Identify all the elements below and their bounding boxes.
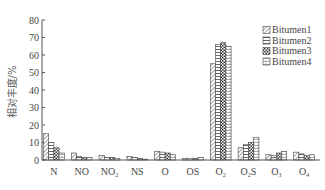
- bar-Bitumen3-O2S: [249, 143, 254, 161]
- bar-Bitumen4-O2S: [254, 137, 259, 160]
- bar-Bitumen1-O4: [294, 152, 299, 160]
- bar-group-NO: [71, 153, 92, 160]
- bar-Bitumen2-N: [49, 143, 54, 161]
- legend-item-Bitumen3: Bitumen3: [263, 45, 311, 56]
- y-tick-label: 20: [29, 120, 39, 131]
- y-tick-label: 10: [29, 137, 39, 148]
- y-tick-label: 50: [29, 67, 39, 78]
- bar-Bitumen1-O2: [210, 64, 215, 160]
- legend-label: Bitumen4: [272, 56, 311, 67]
- bar-Bitumen1-NO2: [99, 156, 104, 160]
- y-tick-label: 0: [34, 155, 39, 166]
- legend-item-Bitumen2: Bitumen2: [263, 35, 311, 46]
- x-axis: NNONO2NSOOSO2O2SO3O4: [42, 160, 320, 178]
- y-tick-label: 70: [29, 32, 39, 43]
- legend-swatch: [263, 48, 270, 55]
- x-tick-label: N: [50, 166, 57, 177]
- y-axis-label: 相对丰度/%: [6, 66, 18, 119]
- legend-swatch: [263, 58, 270, 65]
- y-tick-label: 30: [29, 102, 39, 113]
- bar-Bitumen1-O2S: [238, 148, 243, 160]
- legend-item-Bitumen4: Bitumen4: [263, 56, 311, 67]
- bar-Bitumen1-O3: [266, 155, 271, 160]
- legend-swatch: [263, 27, 270, 34]
- bar-Bitumen4-N: [59, 153, 64, 160]
- x-tick-label: O: [161, 166, 168, 177]
- x-tick-label: NO: [74, 166, 88, 177]
- bar-group-O: [155, 151, 176, 160]
- y-tick-label: 60: [29, 50, 39, 61]
- bar-group-O3: [266, 151, 287, 160]
- bar-Bitumen1-NO: [71, 153, 76, 160]
- bar-Bitumen1-O: [155, 151, 160, 160]
- x-tick-label: O4: [299, 166, 309, 178]
- bar-Bitumen2-O2S: [243, 144, 248, 160]
- bar-Bitumen2-O4: [299, 154, 304, 160]
- legend-swatch: [263, 37, 270, 44]
- bar-Bitumen4-O3: [282, 151, 287, 160]
- bar-group-O2S: [238, 137, 259, 160]
- legend-label: Bitumen3: [272, 45, 311, 56]
- bar-Bitumen3-O2: [221, 43, 226, 160]
- bar-Bitumen2-O2: [216, 45, 221, 161]
- bar-Bitumen3-O: [165, 153, 170, 160]
- x-tick-label: NO2: [101, 166, 118, 178]
- bar-group-N: [44, 134, 65, 160]
- bar-Bitumen1-NS: [127, 157, 132, 161]
- bar-Bitumen2-O: [160, 152, 165, 160]
- legend-label: Bitumen2: [272, 35, 311, 46]
- legend-label: Bitumen1: [272, 24, 311, 35]
- bar-group-O4: [294, 152, 315, 160]
- bar-group-NS: [127, 157, 148, 161]
- bar-Bitumen4-O: [170, 155, 175, 160]
- bar-Bitumen1-N: [44, 134, 49, 160]
- x-tick-label: O2S: [241, 166, 257, 178]
- bar-Bitumen4-O4: [309, 155, 314, 160]
- x-tick-label: O3: [271, 166, 281, 178]
- bar-chart: 相对丰度/% 01020304050607080 NNONO2NSOOSO2O2…: [0, 0, 325, 190]
- legend: Bitumen1Bitumen2Bitumen3Bitumen4: [263, 24, 311, 67]
- x-tick-label: O2: [216, 166, 226, 178]
- bar-Bitumen2-O3: [271, 156, 276, 160]
- bar-group-O2: [210, 43, 231, 160]
- y-axis: 01020304050607080: [29, 15, 45, 166]
- x-tick-label: OS: [187, 166, 200, 177]
- legend-item-Bitumen1: Bitumen1: [263, 24, 311, 35]
- bar-Bitumen2-NO: [77, 157, 82, 161]
- bar-Bitumen3-O3: [276, 153, 281, 160]
- bar-Bitumen3-N: [54, 148, 59, 160]
- y-tick-label: 40: [29, 85, 39, 96]
- bar-Bitumen3-O4: [304, 156, 309, 160]
- y-tick-label: 80: [29, 15, 39, 26]
- bar-group-NO2: [99, 156, 120, 160]
- bar-Bitumen4-O2: [226, 46, 231, 160]
- x-tick-label: NS: [131, 166, 144, 177]
